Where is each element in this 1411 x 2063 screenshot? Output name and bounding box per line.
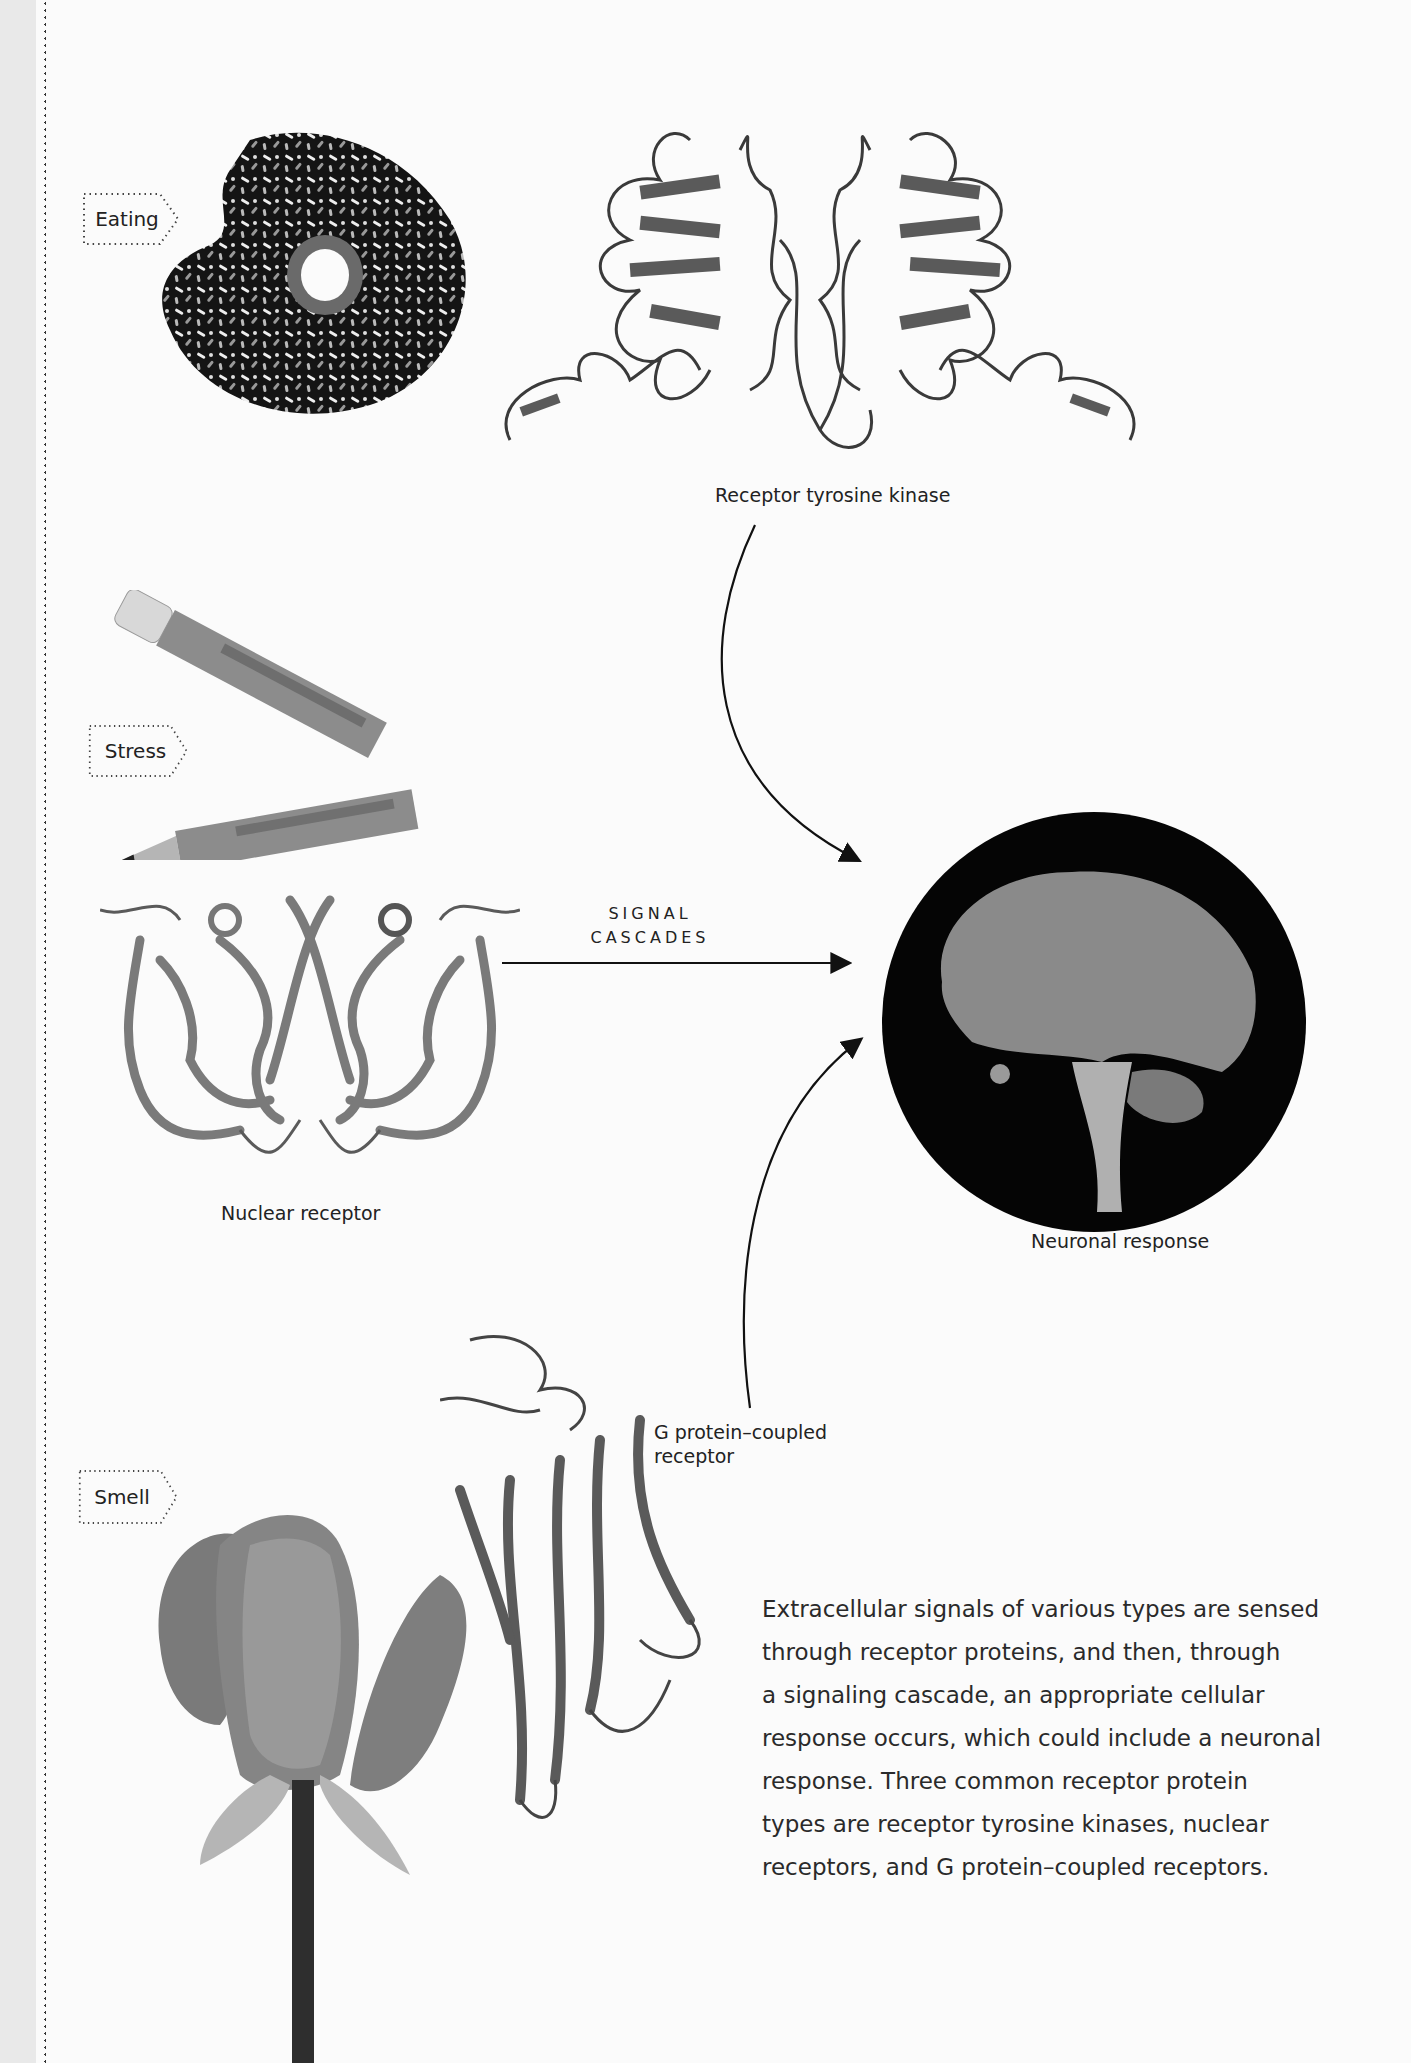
- arrow-rtk-to-response: [722, 525, 858, 860]
- figure-caption: Extracellular signals of various types a…: [762, 1588, 1362, 1889]
- rose-image: [140, 1505, 480, 2063]
- arrow-gpcr-to-response: [744, 1040, 860, 1408]
- gpcr-structure-image: [440, 1330, 730, 1880]
- neuronal-response-image: [882, 812, 1306, 1232]
- neuronal-response-label: Neuronal response: [1031, 1230, 1209, 1252]
- gpcr-label: G protein–coupled receptor: [654, 1420, 827, 1468]
